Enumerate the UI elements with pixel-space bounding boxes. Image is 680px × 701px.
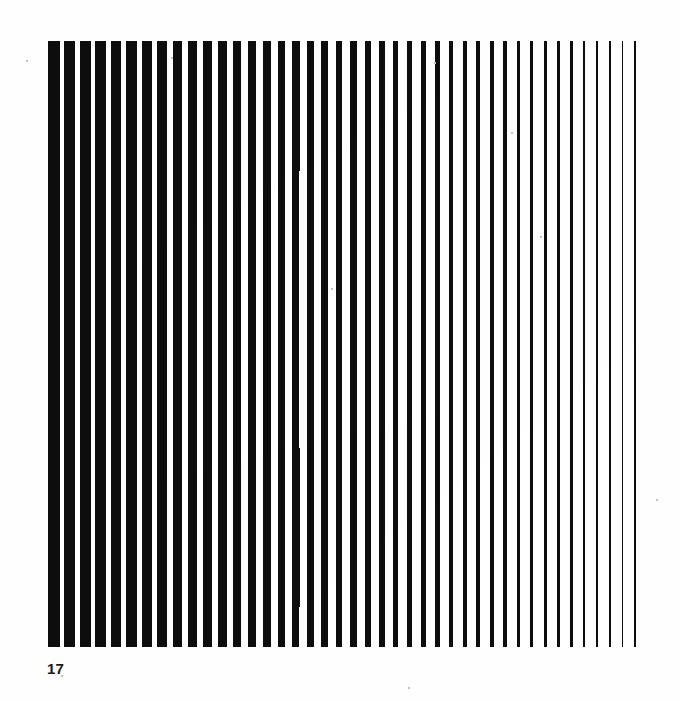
stripe-gap — [342, 41, 350, 647]
stripe-gap — [533, 41, 543, 647]
print-speckle — [408, 687, 410, 689]
stripe-gap — [398, 41, 407, 647]
print-speckle — [434, 62, 436, 64]
stripe-gap — [453, 41, 462, 647]
stripe-gap — [182, 41, 188, 647]
stripe-gap — [60, 41, 64, 647]
op-art-figure — [0, 0, 680, 701]
plate-number-caption: 17 — [47, 661, 64, 676]
stripe-gap — [467, 41, 476, 647]
stripe-gap — [585, 41, 596, 647]
stripe-gap — [598, 41, 609, 647]
stripe-gap — [560, 41, 570, 647]
stripe-gap — [426, 41, 435, 647]
stripe-gap — [285, 41, 292, 647]
stripe-gap — [573, 41, 583, 647]
stripe-gap — [440, 41, 449, 647]
print-speckle — [656, 499, 658, 501]
stripe-gap — [137, 41, 142, 647]
stripe-gap — [547, 41, 557, 647]
stripe-gap — [241, 41, 248, 647]
stripe-gap — [494, 41, 504, 647]
print-speckle — [511, 132, 513, 134]
stripe-gap — [152, 41, 158, 647]
print-speckle — [331, 288, 333, 290]
page-canvas: 17 — [0, 0, 680, 701]
stripe-gap — [314, 41, 322, 647]
stripe-gap — [91, 41, 96, 647]
stripe-gap — [611, 41, 622, 647]
stripe-gap — [328, 41, 336, 647]
stripe-group-inverted — [48, 41, 636, 647]
stripe-gap — [623, 41, 634, 647]
stripe-gap — [299, 41, 306, 647]
stripe-gap — [520, 41, 530, 647]
stripe-gap — [412, 41, 421, 647]
print-speckle — [171, 57, 173, 59]
stripe-gap — [75, 41, 79, 647]
stripe-gap — [121, 41, 126, 647]
stripe-gap — [212, 41, 218, 647]
stripe-gap — [106, 41, 111, 647]
print-speckle — [540, 236, 542, 238]
stripe-gap — [507, 41, 517, 647]
stripe-gap — [371, 41, 379, 647]
stripe-gap — [256, 41, 263, 647]
print-speckle — [26, 60, 29, 63]
stripe-gap — [167, 41, 173, 647]
stripe-gap — [385, 41, 393, 647]
stripe-gap — [480, 41, 489, 647]
stripe-gap — [357, 41, 365, 647]
stripe-gap — [197, 41, 203, 647]
stripe-gap — [227, 41, 234, 647]
stripe-gap — [271, 41, 278, 647]
